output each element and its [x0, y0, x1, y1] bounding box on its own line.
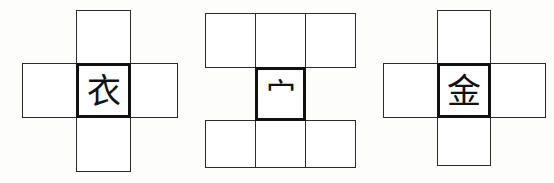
grid-cell-left[interactable]: [22, 63, 77, 118]
radical-glyph: 金: [440, 66, 488, 115]
grid-cell-top-left[interactable]: [205, 13, 256, 68]
grid-cell-top[interactable]: [437, 10, 491, 64]
cell-glyph: [384, 64, 437, 117]
grid-cell-bottom-middle[interactable]: [255, 120, 306, 168]
cell-glyph: [131, 64, 177, 117]
grid-cell-center-radical[interactable]: 衣: [76, 63, 131, 118]
worksheet-canvas: 衣 宀: [0, 0, 554, 183]
grid-cell-center-radical[interactable]: 宀: [255, 67, 306, 121]
grid-cell-bottom[interactable]: [76, 117, 131, 172]
grid-cell-bottom-right[interactable]: [305, 120, 356, 168]
cell-glyph: [256, 14, 305, 67]
cell-glyph: [306, 14, 355, 67]
cell-glyph: [77, 11, 130, 63]
grid-cell-left[interactable]: [383, 63, 438, 118]
cell-glyph: [256, 121, 305, 167]
grid-cell-bottom[interactable]: [437, 117, 491, 166]
cell-glyph: [77, 118, 130, 171]
radical-glyph: 宀: [258, 70, 303, 118]
grid-cell-top-right[interactable]: [305, 13, 356, 68]
radical-figure-2: 宀: [185, 0, 370, 183]
grid-cell-right[interactable]: [490, 63, 546, 118]
grid-cell-center-radical[interactable]: 金: [437, 63, 491, 118]
cell-glyph: [206, 14, 255, 67]
grid-cell-top-middle[interactable]: [255, 13, 306, 68]
grid-cell-top[interactable]: [76, 10, 131, 64]
radical-figure-1: 衣: [0, 0, 185, 183]
cell-glyph: [491, 64, 545, 117]
radical-glyph: 衣: [79, 66, 128, 115]
cell-glyph: [306, 121, 355, 167]
cell-glyph: [23, 64, 76, 117]
grid-cell-bottom-left[interactable]: [205, 120, 256, 168]
cell-glyph: [438, 118, 490, 165]
cell-glyph: [206, 121, 255, 167]
radical-figure-3: 金: [370, 0, 554, 183]
grid-cell-right[interactable]: [130, 63, 178, 118]
cell-glyph: [438, 11, 490, 63]
